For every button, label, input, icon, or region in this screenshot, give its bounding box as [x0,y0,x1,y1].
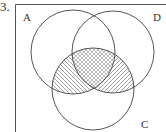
venn-diagram: A D C [0,0,166,132]
label-c: C [141,118,148,130]
label-a: A [23,11,31,23]
label-d: D [153,11,161,23]
